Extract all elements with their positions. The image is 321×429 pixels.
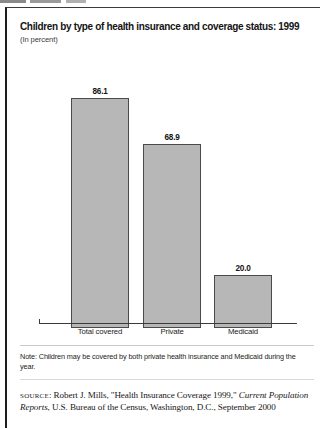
source-text-part2: , U.S. Bureau of the Census, Washington,… xyxy=(48,402,276,412)
chart-note: Note: Children may be covered by both pr… xyxy=(20,352,308,371)
bar-medicaid: 20.0 xyxy=(214,275,272,328)
bar-value-label: 20.0 xyxy=(214,264,272,273)
bar-chart-plot-area: 86.168.920.0 xyxy=(12,56,321,328)
bar-rect xyxy=(214,275,272,328)
source-separator-rule xyxy=(20,379,314,380)
tick-label-medicaid: Medicaid xyxy=(183,327,303,336)
x-axis-tick-labels: Total coveredPrivateMedicaid xyxy=(12,327,321,339)
figure-header: Children by type of health insurance and… xyxy=(20,21,316,44)
source-citation: source: Robert J. Mills, "Health Insuran… xyxy=(20,390,310,413)
source-text-part1: Robert J. Mills, "Health Insurance Cover… xyxy=(51,390,238,400)
x-axis-line xyxy=(39,323,297,324)
bar-rect xyxy=(71,98,129,328)
bar-total-covered: 86.1 xyxy=(71,98,129,328)
note-separator-rule xyxy=(20,345,314,346)
bar-rect xyxy=(143,144,201,328)
chart-subtitle: (In percent) xyxy=(20,35,316,44)
bar-value-label: 86.1 xyxy=(71,87,129,96)
page-top-fragment xyxy=(0,0,110,3)
page-title: Children by type of health insurance and… xyxy=(20,21,307,33)
figure-box: Children by type of health insurance and… xyxy=(5,7,320,428)
source-label: source xyxy=(20,392,49,399)
bar-private: 68.9 xyxy=(143,144,201,328)
bar-value-label: 68.9 xyxy=(143,133,201,142)
